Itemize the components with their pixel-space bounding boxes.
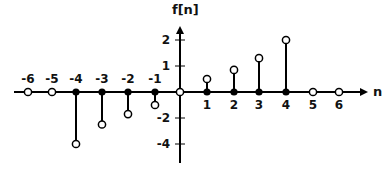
y-tick-label: 2 — [162, 33, 170, 47]
stem-tip-marker — [203, 75, 210, 82]
x-tick-label: -5 — [45, 72, 58, 86]
stem-base-dot — [124, 88, 131, 95]
y-tick-label: -4 — [157, 137, 170, 151]
y-tick-label: 1 — [162, 59, 170, 73]
x-tick-label: 4 — [282, 98, 290, 112]
x-tick-label: 5 — [309, 98, 317, 112]
x-axis-label: n — [373, 84, 382, 99]
stem-tip-marker — [255, 55, 262, 62]
x-tick-label: -2 — [121, 72, 134, 86]
stem-tip-marker — [151, 101, 158, 108]
stem-marker-zero — [309, 88, 316, 95]
stem-base-dot — [151, 88, 158, 95]
stem-base-dot — [72, 88, 79, 95]
stem-plot: 21-2-4 -6-5-4-3-2-1123456 n f[n] — [0, 0, 390, 173]
stem-base-dot — [282, 88, 289, 95]
y-axis-label: f[n] — [172, 2, 199, 17]
stem-tip-marker — [72, 140, 79, 147]
x-tick-label: 2 — [230, 98, 238, 112]
stem-marker-zero — [176, 88, 183, 95]
stem-marker-zero — [335, 88, 342, 95]
stem-tip-marker — [230, 66, 237, 73]
x-tick-label: -6 — [21, 72, 34, 86]
x-tick-label: -4 — [69, 72, 82, 86]
stem-base-dot — [230, 88, 237, 95]
x-tick-label: 1 — [203, 98, 211, 112]
x-tick-label: -3 — [95, 72, 108, 86]
stem-tip-marker — [282, 36, 289, 43]
stem-marker-zero — [48, 88, 55, 95]
x-tick-label: 6 — [335, 98, 343, 112]
y-tick-label: -2 — [157, 111, 170, 125]
x-tick-label: 3 — [255, 98, 263, 112]
stem-tip-marker — [124, 111, 131, 118]
stem-marker-zero — [24, 88, 31, 95]
x-tick-label: -1 — [148, 72, 161, 86]
stem-tip-marker — [98, 121, 105, 128]
stem-base-dot — [98, 88, 105, 95]
stem-base-dot — [255, 88, 262, 95]
stem-base-dot — [203, 88, 210, 95]
